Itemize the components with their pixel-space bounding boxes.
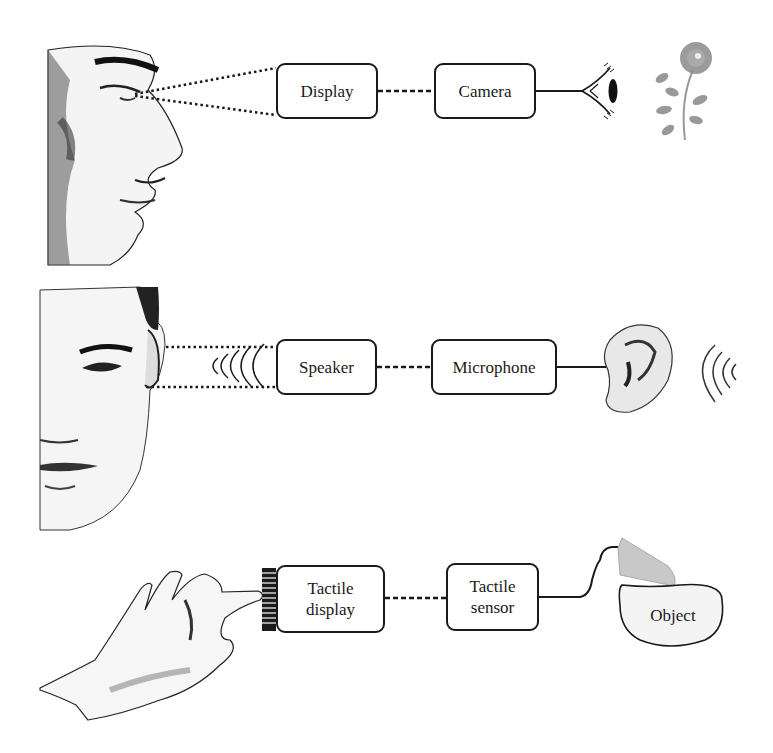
microphone-label: Microphone [452,357,535,378]
sound-waves-incoming-icon [703,345,737,402]
microphone-box: Microphone [431,339,557,395]
front-face-illustration [40,287,165,530]
tactile-display-box: Tactile display [276,565,385,633]
eye-icon [582,63,618,119]
tactile-display-label-line1: Tactile [307,578,353,599]
ear-icon [604,325,672,412]
hand-illustration [40,571,263,720]
camera-label: Camera [459,81,512,102]
speaker-box: Speaker [276,339,377,395]
camera-box: Camera [434,63,536,119]
object-label: Object [640,606,706,626]
tactile-sensor-label-line1: Tactile [469,576,515,597]
tactile-sensor-label-line2: sensor [471,597,514,618]
diagram-canvas [0,0,773,753]
tactile-sensor-box: Tactile sensor [446,563,539,631]
sensor-cable [539,547,620,597]
profile-face-illustration [48,46,182,265]
fingertip-sensor-icon [618,538,675,586]
sound-waves-emitted-icon [213,344,264,388]
flower-illustration [654,42,712,140]
tactile-display-label-line2: display [306,599,355,620]
display-box: Display [276,63,378,119]
speaker-label: Speaker [299,357,354,378]
display-label: Display [301,81,354,102]
tactile-pin-array-icon [262,568,276,631]
